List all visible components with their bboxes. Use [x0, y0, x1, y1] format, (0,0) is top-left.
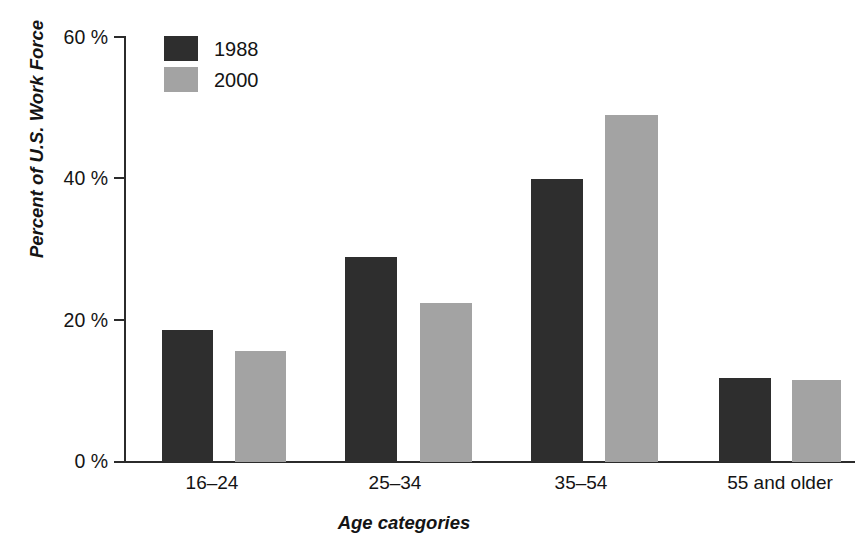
bar-chart: Percent of U.S. Work Force 60 % 40 % 20 …: [0, 0, 864, 550]
bar-1988-25-34: [345, 257, 397, 462]
y-tick-label-60: 60 %: [0, 26, 108, 49]
bar-1988-35-54: [531, 179, 583, 462]
x-category-label-55-older: 55 and older: [700, 472, 860, 494]
plot-area: [124, 37, 855, 462]
legend: 1988 2000: [164, 33, 259, 95]
bar-2000-55-older: [792, 380, 841, 462]
x-category-label-16-24: 16–24: [150, 472, 274, 494]
bar-1988-55-older: [719, 378, 771, 462]
legend-item-1988: 1988: [164, 33, 259, 64]
legend-label-2000: 2000: [214, 70, 259, 90]
legend-label-1988: 1988: [214, 39, 259, 59]
bar-2000-25-34: [420, 303, 472, 462]
x-category-label-25-34: 25–34: [333, 472, 457, 494]
bar-1988-16-24: [162, 330, 213, 462]
bar-2000-35-54: [605, 115, 658, 462]
x-category-label-35-54: 35–54: [519, 472, 643, 494]
legend-swatch-icon-1988: [164, 36, 198, 61]
y-tick-label-40: 40 %: [0, 167, 108, 190]
x-axis-title: Age categories: [124, 512, 684, 534]
legend-item-2000: 2000: [164, 64, 259, 95]
y-tick-label-0: 0 %: [0, 450, 108, 473]
bar-2000-16-24: [235, 351, 286, 462]
y-tick-label-20: 20 %: [0, 309, 108, 332]
legend-swatch-icon-2000: [164, 67, 198, 92]
